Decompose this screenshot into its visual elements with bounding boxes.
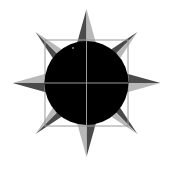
highlight-dot	[72, 47, 74, 49]
ray-dark-half	[13, 83, 49, 93]
sun-icon	[0, 0, 172, 172]
ray-light-half	[13, 73, 49, 83]
ray-dark-half	[125, 73, 161, 83]
ray-light-half	[125, 83, 161, 93]
sun-icon-canvas	[0, 0, 172, 172]
